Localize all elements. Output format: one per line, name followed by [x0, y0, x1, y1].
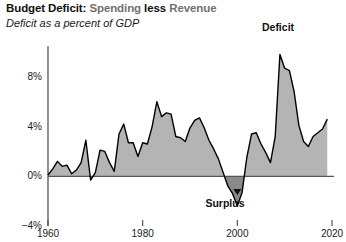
deficit-area: [244, 54, 327, 176]
area-fill-layer: [48, 54, 327, 206]
surplus-label: Surplus: [185, 198, 265, 209]
y-tick-label: 0%: [8, 171, 42, 181]
deficit-area: [48, 140, 90, 176]
deficit-label: Deficit: [238, 22, 318, 33]
budget-deficit-chart: Budget Deficit: Spending less Revenue De…: [0, 0, 346, 242]
plot-area: [0, 0, 346, 242]
deficit-area: [93, 102, 224, 177]
x-tick-label: 2020: [312, 229, 346, 239]
x-tick-label: 1960: [28, 229, 68, 239]
y-tick-label: 4%: [8, 122, 42, 132]
y-tick-label: 8%: [8, 72, 42, 82]
x-tick-label: 2000: [217, 229, 257, 239]
tick-marks-layer: [48, 220, 332, 226]
x-tick-label: 1980: [123, 229, 163, 239]
